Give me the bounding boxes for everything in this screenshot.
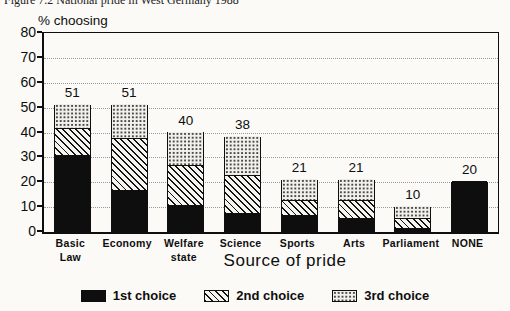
y-tick-mark	[37, 81, 42, 83]
stacked-bar	[451, 182, 488, 232]
figure-caption: Figure 7.2 National pride in West German…	[4, 0, 239, 7]
y-tick-label: 40	[6, 124, 36, 140]
legend: 1st choice 2nd choice 3rd choice	[0, 288, 510, 303]
bar-value-label: 38	[214, 117, 271, 132]
bar-segment-dots	[168, 132, 203, 167]
bar-segment-solid-black	[225, 214, 260, 231]
y-axis-label: % choosing	[38, 13, 108, 28]
y-tick-mark	[37, 205, 42, 207]
legend-label: 3rd choice	[364, 288, 429, 303]
legend-item-2nd-choice: 2nd choice	[204, 288, 304, 303]
bar-value-label: 40	[158, 113, 215, 128]
gridline	[44, 83, 498, 84]
bar-segment-solid-black	[55, 156, 90, 231]
y-tick-label: 80	[6, 24, 36, 40]
stacked-bar	[281, 180, 318, 232]
stacked-bar	[224, 137, 261, 232]
y-tick-label: 50	[6, 99, 36, 115]
y-tick-label: 20	[6, 173, 36, 189]
y-tick-mark	[37, 155, 42, 157]
bar-segment-diagonal-hatch	[55, 129, 90, 156]
y-tick-mark	[37, 180, 42, 182]
bar-segment-diagonal-hatch	[168, 166, 203, 206]
x-tick-label: NONE	[434, 237, 501, 251]
y-tick-mark	[37, 31, 42, 33]
y-tick-mark	[37, 106, 42, 108]
bar-segment-diagonal-hatch	[395, 219, 430, 229]
bar-segment-diagonal-hatch	[282, 201, 317, 216]
bar-segment-dots	[395, 206, 430, 218]
bar-segment-dots	[282, 179, 317, 201]
y-tick-label: 0	[6, 223, 36, 239]
third-choice-swatch-icon	[332, 290, 357, 302]
legend-label: 1st choice	[113, 288, 177, 303]
second-choice-swatch-icon	[204, 290, 229, 302]
bar-value-label: 51	[101, 85, 158, 100]
scanned-figure-page: Figure 7.2 National pride in West German…	[0, 0, 510, 311]
y-tick-mark	[37, 56, 42, 58]
x-axis-title: Source of pride	[200, 251, 370, 271]
y-tick-label: 10	[6, 198, 36, 214]
gridline	[44, 58, 498, 59]
bar-segment-diagonal-hatch	[339, 201, 374, 218]
y-tick-mark	[37, 131, 42, 133]
stacked-bar	[54, 105, 91, 232]
stacked-bar	[167, 132, 204, 232]
plot-area: 5151403821211020	[42, 32, 499, 234]
bar-segment-solid-black	[112, 191, 147, 231]
bar-value-label: 21	[328, 160, 385, 175]
first-choice-swatch-icon	[81, 290, 106, 302]
legend-label: 2nd choice	[236, 288, 304, 303]
bar-segment-solid-black	[168, 206, 203, 231]
bar-value-label: 10	[385, 187, 442, 202]
bar-segment-solid-black	[452, 181, 487, 231]
bar-segment-diagonal-hatch	[112, 139, 147, 191]
bar-segment-dots	[55, 104, 90, 129]
legend-item-1st-choice: 1st choice	[81, 288, 177, 303]
bar-segment-solid-black	[395, 229, 430, 231]
bar-value-label: 20	[441, 162, 498, 177]
bar-segment-solid-black	[339, 219, 374, 231]
bar-segment-solid-black	[282, 216, 317, 231]
y-tick-label: 60	[6, 74, 36, 90]
stacked-bar	[338, 180, 375, 232]
bar-segment-dots	[112, 104, 147, 139]
stacked-bar	[394, 207, 431, 232]
legend-item-3rd-choice: 3rd choice	[332, 288, 429, 303]
bar-segment-dots	[225, 136, 260, 176]
bar-segment-dots	[339, 179, 374, 201]
y-tick-mark	[37, 230, 42, 232]
stacked-bar	[111, 105, 148, 232]
y-tick-label: 30	[6, 148, 36, 164]
bar-segment-diagonal-hatch	[225, 176, 260, 213]
y-tick-label: 70	[6, 49, 36, 65]
bar-value-label: 21	[271, 160, 328, 175]
bar-value-label: 51	[44, 85, 101, 100]
